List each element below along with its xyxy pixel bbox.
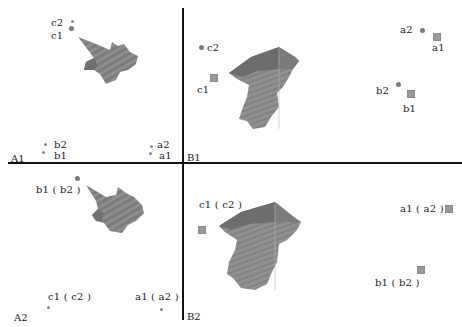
marker-b1-c1	[210, 74, 218, 82]
label-b1-b1: b1	[403, 104, 416, 114]
label-a2-a1a2: a1 ( a2 )	[135, 292, 179, 302]
horizontal-divider	[8, 162, 462, 164]
marker-b1-a1	[433, 33, 441, 41]
label-a2-c1c2: c1 ( c2 )	[48, 292, 91, 302]
surface-shape-b2	[217, 202, 307, 292]
marker-a2-b1b2	[75, 176, 80, 181]
marker-a1-c1	[69, 26, 74, 31]
panel-label-b2: B2	[187, 312, 201, 322]
label-a1-c2: c2	[51, 18, 63, 28]
marker-b2-a1a2	[445, 205, 453, 213]
label-b2-c1c2: c1 ( c2 )	[199, 200, 242, 210]
label-b1-a2: a2	[400, 25, 413, 35]
surface-shape-b1	[227, 47, 309, 129]
label-a1-a2: a2	[157, 140, 170, 150]
marker-b1-b2	[396, 82, 401, 87]
marker-a2-a1a2	[160, 308, 163, 311]
surface-shape-a1	[76, 34, 146, 84]
marker-b1-a2	[420, 28, 425, 33]
marker-a1-b1	[42, 151, 45, 154]
label-b1-c1: c1	[197, 85, 209, 95]
label-a1-c1: c1	[51, 31, 63, 41]
marker-a1-c2	[71, 20, 74, 23]
panel-label-b1: B1	[187, 153, 201, 163]
marker-b2-c1c2	[198, 226, 206, 234]
panel-label-a2: A2	[14, 313, 28, 323]
marker-b1-c2	[199, 45, 204, 50]
marker-a1-a2	[150, 145, 153, 148]
label-a1-b2: b2	[54, 140, 67, 150]
label-b2-a1a2: a1 ( a2 )	[400, 204, 444, 214]
label-a2-b1b2: b1 ( b2 )	[36, 185, 81, 195]
marker-b2-b1b2	[417, 266, 425, 274]
label-b1-a1: a1	[432, 43, 445, 53]
label-a1-a1: a1	[159, 151, 172, 161]
surface-shape-a2	[84, 183, 150, 233]
label-b2-b1b2: b1 ( b2 )	[375, 278, 420, 288]
label-a1-b1: b1	[54, 151, 67, 161]
label-b1-c2: c2	[207, 43, 219, 53]
panel-label-a1: A1	[11, 154, 25, 164]
label-b1-b2: b2	[376, 86, 389, 96]
marker-a1-b2	[44, 143, 47, 146]
marker-a2-c1c2	[47, 306, 50, 309]
marker-a1-a1	[149, 152, 152, 155]
vertical-divider	[182, 8, 184, 320]
marker-b1-b1	[407, 90, 415, 98]
